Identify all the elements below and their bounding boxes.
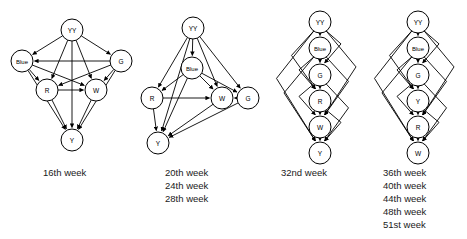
edge-YY-to-Y [162,39,190,132]
edge-R-to-Y [52,100,66,129]
caption-line: 48th week [383,206,427,217]
dominance-hierarchy-figure: YYBlueGRWYYYBlueRWGYYYBlueGRWYYYBlueGYRW… [0,0,467,239]
edge-G-to-Y [169,103,238,137]
node-label-W: W [219,95,226,102]
node-label-Y: Y [416,98,421,105]
caption-graph-36-40-44-48-51st-week: 36th week40th week44th week48th week51st… [383,167,427,230]
captions-layer: 16th week20th week24th week28th week32nd… [43,167,427,230]
caption-line: 16th week [43,167,87,178]
edge-YY-to-G [81,36,110,54]
caption-line: 44th week [383,193,427,204]
figure-canvas: YYBlueGRWYYYBlueRWGYYYBlueGRWYYYBlueGYRW… [0,0,467,239]
node-label-G: G [415,72,420,79]
edge-YY-to-Blue [33,36,63,55]
node-label-YY: YY [414,19,423,26]
caption-graph-32nd-week: 32nd week [281,167,327,178]
node-label-W: W [93,87,100,94]
node-label-Y: Y [318,150,323,157]
edge-R-to-Y [153,109,156,131]
node-label-YY: YY [189,25,198,32]
caption-line: 24th week [165,180,209,191]
edge-W-to-Y [77,100,91,129]
node-label-YY: YY [68,27,77,34]
node-label-R: R [318,98,323,105]
graph-edges-graph-20-24-28th-week [153,37,240,138]
caption-line: 36th week [383,167,427,178]
caption-graph-20-24-28th-week: 20th week24th week28th week [165,167,209,204]
edge-YY-to-W [76,40,91,78]
node-label-R: R [45,87,50,94]
nodes-layer: YYBlueGRWYYYBlueRWGYYYBlueGRWYYYBlueGYRW [11,11,429,164]
node-label-G: G [118,58,123,65]
node-label-Blue: Blue [314,46,327,52]
edge-YY-to-R [52,40,68,78]
edge-YY-to-G [200,37,240,89]
node-label-W: W [415,150,422,157]
node-label-Blue: Blue [186,66,199,72]
node-label-Blue: Blue [412,46,425,52]
caption-line: 51st week [383,219,426,230]
node-label-G: G [245,95,250,102]
node-label-Blue: Blue [16,59,29,65]
graph-nodes-graph-16th-week: YYBlueGRWY [11,19,132,151]
node-label-Y: Y [70,137,75,144]
edge-Blue-to-R [162,75,183,91]
node-label-R: R [150,95,155,102]
caption-line: 20th week [165,167,209,178]
caption-graph-16th-week: 16th week [43,167,87,178]
node-label-R: R [416,124,421,131]
edge-W-to-Y [168,104,213,135]
node-label-W: W [317,124,324,131]
caption-line: 28th week [165,193,209,204]
caption-line: 40th week [383,180,427,191]
node-label-G: G [317,72,322,79]
node-label-YY: YY [316,19,325,26]
node-label-Y: Y [156,140,161,147]
caption-line: 32nd week [281,167,327,178]
